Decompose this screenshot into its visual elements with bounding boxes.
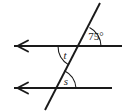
- angle-label-75: 75°: [88, 30, 103, 42]
- angle-label-t: t: [63, 49, 67, 61]
- angle-label-s: s: [64, 75, 68, 87]
- geometry-figure: 75° t s: [0, 0, 128, 112]
- transversal-line: [45, 3, 100, 110]
- geometry-diagram-canvas: 75° t s: [0, 0, 128, 112]
